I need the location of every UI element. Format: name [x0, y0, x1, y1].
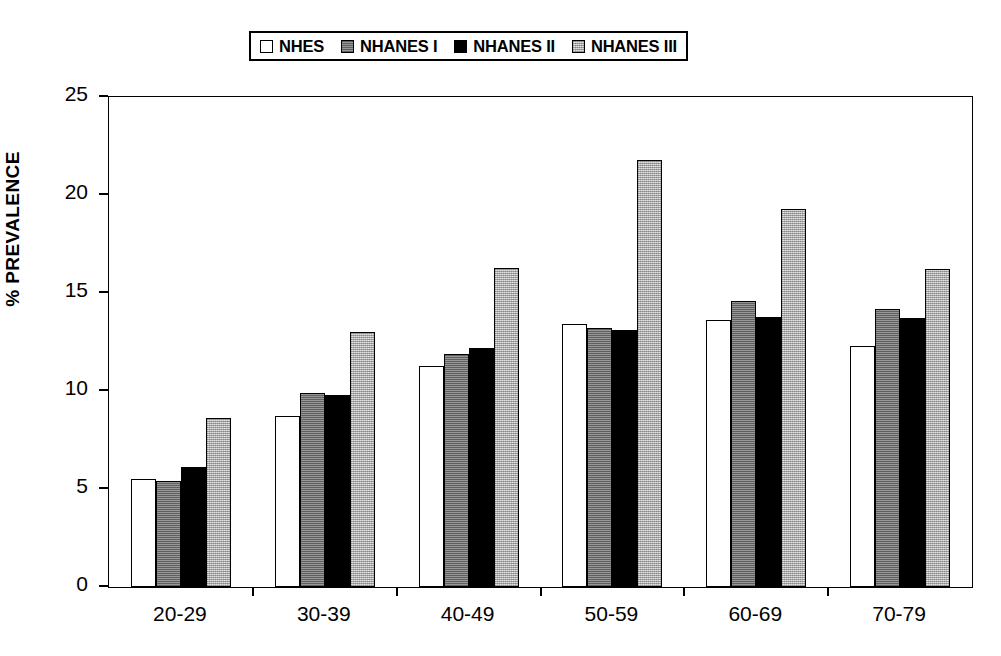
y-axis-tick-mark [99, 389, 108, 391]
x-axis-tick-mark [683, 587, 685, 596]
y-axis-tick-mark [99, 487, 108, 489]
bar [275, 416, 300, 587]
bar [181, 467, 206, 587]
x-axis-tick-mark [540, 587, 542, 596]
y-axis-tick-mark [99, 95, 108, 97]
legend-swatch-nhes [260, 40, 273, 53]
bar [206, 418, 231, 587]
legend-item-nhanes-3: NHANES III [572, 38, 677, 55]
y-axis-tick-mark [99, 291, 108, 293]
bar [637, 160, 662, 587]
legend-label-nhanes-2: NHANES II [473, 38, 555, 55]
bar [131, 479, 156, 587]
bar [300, 393, 325, 587]
legend-label-nhanes-1: NHANES I [360, 38, 437, 55]
x-axis-tick-label: 60-69 [695, 603, 815, 624]
bar [469, 348, 494, 587]
bar-group [109, 97, 253, 587]
bar [587, 328, 612, 587]
bar [494, 268, 519, 587]
x-axis-tick-label: 40-49 [408, 603, 528, 624]
chart-legend: NHES NHANES I NHANES II NHANES III [249, 31, 688, 61]
y-axis-tick-label: 15 [28, 279, 88, 300]
bar [562, 324, 587, 587]
bar [444, 354, 469, 587]
bar [706, 320, 731, 587]
bar-group [253, 97, 397, 587]
y-axis-tick-label: 5 [28, 475, 88, 496]
y-axis-tick-label: 0 [28, 573, 88, 594]
bar [850, 346, 875, 587]
x-axis-tick-label: 20-29 [120, 603, 240, 624]
y-axis-tick-label: 20 [28, 181, 88, 202]
bar [731, 301, 756, 587]
bar [756, 317, 781, 587]
y-axis-title: % PREVALENCE [2, 109, 24, 349]
x-axis-tick-label: 50-59 [551, 603, 671, 624]
bar [612, 330, 637, 587]
chart-figure: NHES NHANES I NHANES II NHANES III % PRE… [0, 0, 1001, 656]
legend-item-nhes: NHES [260, 38, 324, 55]
bar [325, 395, 350, 587]
y-axis-tick-mark [99, 585, 108, 587]
x-axis-tick-label: 70-79 [839, 603, 959, 624]
bar-group [684, 97, 828, 587]
legend-item-nhanes-1: NHANES I [341, 38, 437, 55]
bar-group [397, 97, 541, 587]
legend-label-nhes: NHES [279, 38, 324, 55]
bar [156, 481, 181, 587]
bars-layer [109, 97, 972, 587]
legend-label-nhanes-3: NHANES III [591, 38, 677, 55]
bar [350, 332, 375, 587]
legend-swatch-nhanes-3 [572, 40, 585, 53]
x-axis-tick-mark [827, 587, 829, 596]
plot-area [108, 96, 973, 588]
x-axis-tick-label: 30-39 [264, 603, 384, 624]
y-axis-tick-mark [99, 193, 108, 195]
bar [781, 209, 806, 587]
bar [925, 269, 950, 587]
y-axis-tick-label: 10 [28, 377, 88, 398]
bar [419, 366, 444, 587]
x-axis-tick-mark [252, 587, 254, 596]
bar [900, 318, 925, 587]
legend-item-nhanes-2: NHANES II [454, 38, 555, 55]
bar [875, 309, 900, 587]
legend-swatch-nhanes-2 [454, 40, 467, 53]
x-axis-tick-mark [396, 587, 398, 596]
legend-swatch-nhanes-1 [341, 40, 354, 53]
bar-group [541, 97, 685, 587]
x-axis: 20-2930-3940-4950-5960-6970-79 [108, 587, 971, 647]
y-axis-tick-label: 25 [28, 83, 88, 104]
bar-group [828, 97, 972, 587]
